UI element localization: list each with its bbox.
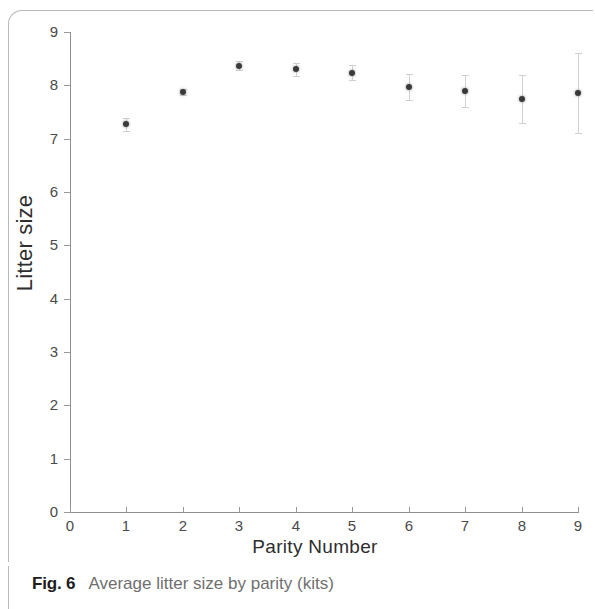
error-bar-cap [406, 74, 413, 75]
x-tick [352, 507, 353, 513]
error-bar-cap [236, 61, 243, 62]
y-tick-label: 7 [36, 131, 58, 146]
x-tick-label: 0 [57, 518, 83, 533]
x-tick-label: 3 [226, 518, 252, 533]
y-tick-label: 5 [36, 237, 58, 252]
data-point-marker [462, 88, 468, 94]
y-axis-line [70, 32, 71, 513]
x-axis-line [70, 512, 579, 513]
scatter-chart: 0123456789 0123456789 Litter size Parity… [0, 0, 595, 609]
error-bar-cap [236, 70, 243, 71]
x-tick [70, 507, 71, 513]
data-point-marker [519, 96, 525, 102]
x-tick-label: 9 [565, 518, 591, 533]
y-tick [64, 459, 70, 460]
x-tick [296, 507, 297, 513]
x-tick [465, 507, 466, 513]
error-bar-cap [406, 100, 413, 101]
y-tick [64, 85, 70, 86]
y-axis-title: Litter size [12, 163, 38, 323]
error-bar-cap [575, 133, 582, 134]
x-tick-label: 5 [339, 518, 365, 533]
data-point-marker [293, 66, 299, 72]
y-tick-label: 4 [36, 291, 58, 306]
x-tick [578, 507, 579, 513]
y-tick-label: 2 [36, 397, 58, 412]
error-bar-cap [349, 80, 356, 81]
x-tick-label: 6 [396, 518, 422, 533]
x-tick-label: 1 [113, 518, 139, 533]
figure-caption-label: Fig. 6 [32, 574, 75, 593]
y-tick [64, 139, 70, 140]
x-tick [183, 507, 184, 513]
error-bar-cap [123, 118, 130, 119]
data-point-marker [180, 89, 186, 95]
error-bar-cap [293, 63, 300, 64]
error-bar-cap [180, 95, 187, 96]
y-tick-label: 8 [36, 77, 58, 92]
x-tick-label: 7 [452, 518, 478, 533]
error-bar-cap [462, 107, 469, 108]
error-bar-cap [462, 75, 469, 76]
y-tick [64, 245, 70, 246]
error-bar-cap [293, 76, 300, 77]
error-bar-cap [519, 75, 526, 76]
y-tick [64, 299, 70, 300]
x-tick [239, 507, 240, 513]
y-tick [64, 405, 70, 406]
y-tick [64, 32, 70, 33]
x-tick [126, 507, 127, 513]
x-tick [522, 507, 523, 513]
x-tick-label: 4 [283, 518, 309, 533]
x-tick-label: 2 [170, 518, 196, 533]
error-bar-cap [349, 65, 356, 66]
data-point-marker [575, 90, 581, 96]
y-tick [64, 192, 70, 193]
y-tick-label: 3 [36, 344, 58, 359]
y-tick-label: 0 [36, 504, 58, 519]
y-tick-label: 9 [36, 24, 58, 39]
x-tick [409, 507, 410, 513]
data-point-marker [123, 121, 129, 127]
data-point-marker [406, 84, 412, 90]
data-point-marker [349, 70, 355, 76]
figure-caption: Fig. 6 Average litter size by parity (ki… [32, 574, 334, 594]
y-tick [64, 352, 70, 353]
error-bar-cap [575, 53, 582, 54]
x-axis-title: Parity Number [195, 536, 435, 558]
error-bar-cap [519, 123, 526, 124]
figure-caption-text: Average litter size by parity (kits) [88, 574, 333, 593]
data-point-marker [236, 63, 242, 69]
x-tick-label: 8 [509, 518, 535, 533]
error-bar-cap [123, 131, 130, 132]
y-tick-label: 6 [36, 184, 58, 199]
y-tick-label: 1 [36, 451, 58, 466]
